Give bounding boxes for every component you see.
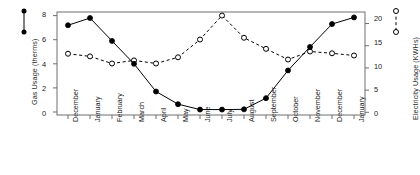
legend-gas-usage xyxy=(22,9,27,35)
series-electricity-usage xyxy=(66,13,357,66)
legend-electricity-usage xyxy=(394,9,399,35)
left-axis-tick-marks xyxy=(53,16,57,112)
right-axis-tick-marks xyxy=(365,24,369,113)
x-axis-tick-marks xyxy=(68,115,354,119)
